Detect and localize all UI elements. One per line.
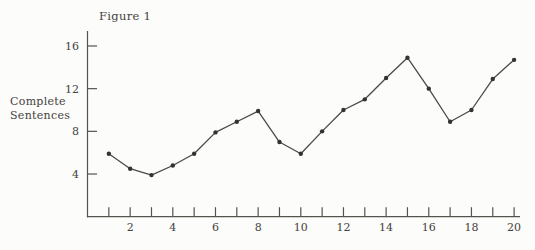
data-point-marker [491, 77, 495, 81]
data-point-marker [213, 130, 217, 134]
x-tick-label: 16 [422, 221, 436, 234]
data-point-marker [427, 86, 431, 90]
data-point-marker [512, 58, 516, 62]
chart-canvas: 4812162468101214161820 [0, 0, 535, 250]
data-point-marker [192, 152, 196, 156]
x-tick-label: 4 [169, 221, 176, 234]
data-point-marker [363, 97, 367, 101]
data-polyline [109, 58, 514, 175]
data-point-marker [107, 152, 111, 156]
figure-1-chart: Figure 1 Complete Sentences 481216246810… [0, 0, 535, 250]
data-point-marker [128, 166, 132, 170]
x-tick-label: 12 [336, 221, 350, 234]
data-point-marker [149, 173, 153, 177]
data-point-marker [320, 129, 324, 133]
x-tick-label: 10 [294, 221, 308, 234]
x-tick-label: 20 [507, 221, 521, 234]
data-point-marker [448, 120, 452, 124]
y-tick-label: 8 [72, 125, 79, 138]
y-tick-label: 12 [65, 83, 79, 96]
data-point-marker [299, 152, 303, 156]
data-point-marker [171, 163, 175, 167]
x-tick-label: 8 [255, 221, 262, 234]
x-tick-label: 18 [464, 221, 478, 234]
data-point-marker [277, 140, 281, 144]
x-tick-label: 14 [379, 221, 393, 234]
x-tick-label: 6 [212, 221, 219, 234]
data-point-marker [235, 120, 239, 124]
y-tick-label: 4 [72, 168, 79, 181]
data-point-marker [384, 76, 388, 80]
y-tick-label: 16 [65, 40, 79, 53]
data-point-marker [256, 109, 260, 113]
data-point-marker [469, 108, 473, 112]
x-tick-label: 2 [127, 221, 134, 234]
data-point-marker [341, 108, 345, 112]
data-point-marker [405, 56, 409, 60]
